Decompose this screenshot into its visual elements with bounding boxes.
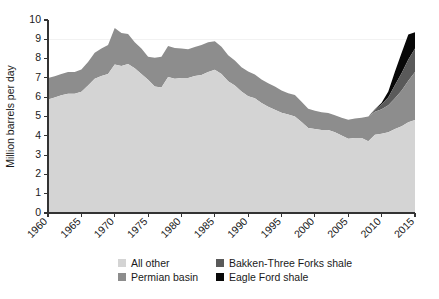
x-tick-label-1975: 1975	[125, 215, 150, 240]
y-axis-title: Million barrels per day	[4, 64, 16, 167]
y-tick-label-1: 1	[35, 186, 41, 198]
legend-swatch-eagle-ford-shale	[216, 273, 224, 281]
y-tick-label-2: 2	[35, 167, 41, 179]
y-tick-label-9: 9	[35, 32, 41, 44]
x-tick-label-1980: 1980	[158, 215, 183, 240]
legend-row-1: All other Bakken-Three Forks shale	[118, 256, 418, 270]
legend-label-all-other: All other	[131, 257, 170, 269]
y-tick-label-6: 6	[35, 90, 41, 102]
legend-item-bakken-three-forks-shale[interactable]: Bakken-Three Forks shale	[216, 257, 352, 269]
y-tick-label-5: 5	[35, 109, 41, 121]
legend-label-permian-basin: Permian basin	[131, 271, 198, 283]
legend-swatch-permian-basin	[118, 273, 126, 281]
legend-row-2: Permian basin Eagle Ford shale	[118, 270, 418, 284]
chart-legend: All other Bakken-Three Forks shale Permi…	[118, 256, 418, 284]
x-tick-label-2010: 2010	[358, 215, 383, 240]
x-tick-label-1985: 1985	[191, 215, 216, 240]
legend-item-all-other[interactable]: All other	[118, 257, 208, 269]
x-tick-label-1965: 1965	[58, 215, 83, 240]
y-tick-label-7: 7	[35, 71, 41, 83]
legend-item-permian-basin[interactable]: Permian basin	[118, 271, 208, 283]
x-tick-label-2015: 2015	[391, 215, 416, 240]
x-tick-label-1990: 1990	[225, 215, 250, 240]
x-tick-label-2005: 2005	[325, 215, 350, 240]
legend-swatch-all-other	[118, 259, 126, 267]
x-tick-label-1970: 1970	[91, 215, 116, 240]
x-tick-label-1995: 1995	[258, 215, 283, 240]
legend-label-bakken-three-forks-shale: Bakken-Three Forks shale	[229, 257, 352, 269]
area-series-all-other	[48, 64, 415, 213]
y-tick-label-10: 10	[29, 13, 41, 25]
stacked-area-chart: 0123456789101960196519701975198019851990…	[0, 0, 439, 252]
y-tick-label-3: 3	[35, 148, 41, 160]
legend-item-eagle-ford-shale[interactable]: Eagle Ford shale	[216, 271, 308, 283]
legend-label-eagle-ford-shale: Eagle Ford shale	[229, 271, 308, 283]
legend-swatch-bakken-three-forks-shale	[216, 259, 224, 267]
x-tick-label-2000: 2000	[291, 215, 316, 240]
y-tick-label-4: 4	[35, 129, 41, 141]
y-tick-label-8: 8	[35, 51, 41, 63]
chart-figure: 0123456789101960196519701975198019851990…	[0, 0, 439, 299]
x-tick-label-1960: 1960	[24, 215, 49, 240]
